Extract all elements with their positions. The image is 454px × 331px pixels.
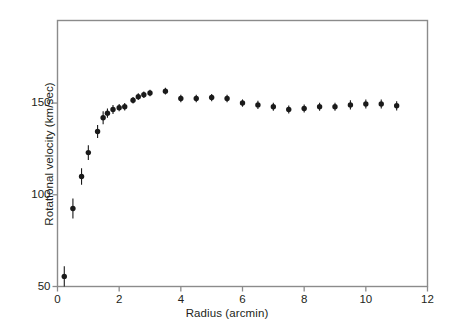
data-point [130, 97, 135, 104]
x-axis-title: Radius (arcmin) [0, 307, 454, 319]
marker-dot [163, 88, 168, 93]
data-point [122, 103, 127, 110]
data-point [224, 95, 229, 102]
marker-dot [105, 110, 110, 115]
data-point [110, 105, 115, 114]
chart-canvas [0, 0, 454, 331]
plot-border [58, 21, 428, 287]
data-point [317, 103, 322, 111]
marker-dot [271, 104, 276, 109]
marker-dot [178, 96, 183, 101]
marker-dot [122, 104, 127, 109]
marker-dot [116, 105, 121, 110]
y-tick-label: 100 [17, 188, 51, 200]
marker-dot [62, 274, 67, 279]
y-axis-title-container: Rotational velocity (km/sec) [39, 14, 55, 294]
y-tick-label: 50 [17, 280, 51, 292]
x-tick-label: 2 [104, 293, 134, 305]
marker-dot [86, 150, 91, 155]
data-point [379, 99, 384, 108]
marker-dot [194, 96, 199, 101]
axis-tick-marks [53, 103, 428, 291]
marker-dot [379, 101, 384, 106]
x-tick-label: 0 [43, 293, 73, 305]
data-point [178, 95, 183, 102]
x-tick-label: 12 [413, 293, 443, 305]
x-tick-label: 4 [166, 293, 196, 305]
marker-dot [363, 101, 368, 106]
marker-dot [147, 90, 152, 95]
data-point [70, 198, 75, 218]
data-point [348, 100, 353, 109]
data-point [105, 109, 110, 118]
data-point [194, 95, 199, 102]
marker-dot [110, 107, 115, 112]
data-point [363, 99, 368, 108]
data-point [163, 88, 168, 95]
x-tick-label: 10 [351, 293, 381, 305]
marker-dot [317, 104, 322, 109]
data-point [301, 105, 306, 113]
data-point [95, 125, 100, 138]
marker-dot [70, 206, 75, 211]
plot-frame [58, 21, 428, 287]
marker-dot [100, 115, 105, 120]
marker-dot [224, 96, 229, 101]
data-point [86, 145, 91, 160]
marker-dot [332, 104, 337, 109]
marker-dot [95, 129, 100, 134]
marker-dot [209, 95, 214, 100]
rotation-curve-figure: Radius (arcmin) Rotational velocity (km/… [0, 0, 454, 331]
data-point [79, 168, 84, 185]
marker-dot [141, 92, 146, 97]
data-point [394, 101, 399, 110]
data-point [136, 93, 141, 100]
marker-dot [255, 102, 260, 107]
data-point [62, 266, 67, 286]
data-points-layer [62, 88, 400, 287]
data-point [240, 99, 245, 106]
data-point [286, 105, 291, 113]
data-point [147, 90, 152, 97]
y-tick-label: 150 [17, 96, 51, 108]
data-point [141, 91, 146, 98]
data-point [116, 104, 121, 111]
data-point [209, 94, 214, 101]
data-point [255, 101, 260, 109]
marker-dot [286, 107, 291, 112]
marker-dot [301, 106, 306, 111]
marker-dot [79, 174, 84, 179]
data-point [271, 103, 276, 111]
marker-dot [394, 103, 399, 108]
marker-dot [240, 100, 245, 105]
data-point [332, 103, 337, 111]
marker-dot [348, 102, 353, 107]
x-tick-label: 8 [289, 293, 319, 305]
marker-dot [136, 94, 141, 99]
marker-dot [130, 98, 135, 103]
x-tick-label: 6 [228, 293, 258, 305]
